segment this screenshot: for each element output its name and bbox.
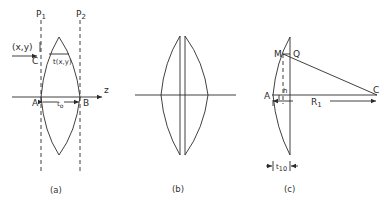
label-p2: P2 bbox=[76, 9, 86, 21]
label-axis-z: z bbox=[104, 85, 109, 95]
panel-a: P1 P2 (x,y) C t(x,y) z A B to (a) bbox=[12, 9, 109, 195]
caption-c: (c) bbox=[284, 184, 295, 194]
panel-b: (b) bbox=[135, 36, 236, 194]
label-h: h bbox=[283, 87, 287, 95]
label-m: M bbox=[274, 49, 282, 59]
lens-right-surface bbox=[59, 37, 80, 155]
label-point-xy: (x,y) bbox=[12, 42, 33, 52]
panel-c: M Q C A h R1 t10 (c) bbox=[264, 37, 379, 194]
caption-a: (a) bbox=[50, 185, 62, 195]
label-thickness-fn: t(x,y) bbox=[53, 58, 72, 66]
label-center-c: C bbox=[373, 85, 379, 95]
label-t0: to bbox=[57, 100, 64, 109]
lens-diagram-figure: P1 P2 (x,y) C t(x,y) z A B to (a) (b) M bbox=[0, 0, 384, 205]
label-ray-c: C bbox=[32, 56, 38, 66]
label-vertex-b: B bbox=[83, 98, 89, 108]
label-q: Q bbox=[293, 49, 300, 59]
label-r1: R1 bbox=[311, 97, 322, 109]
label-t10: t10 bbox=[276, 163, 287, 173]
right-lens-outer-surface bbox=[185, 36, 208, 155]
caption-b: (b) bbox=[172, 184, 184, 194]
label-vertex-a: A bbox=[264, 91, 271, 101]
label-p1: P1 bbox=[36, 9, 46, 21]
lens-left-surface bbox=[41, 37, 59, 155]
radius-line-mc bbox=[283, 54, 377, 95]
label-vertex-a: A bbox=[32, 98, 39, 108]
left-lens-outer-surface bbox=[161, 36, 180, 155]
